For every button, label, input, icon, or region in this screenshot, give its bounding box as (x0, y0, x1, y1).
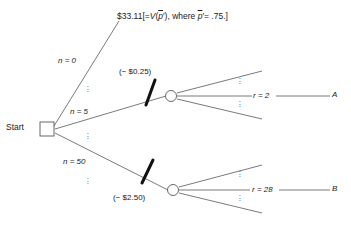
start-decision-node[interactable] (40, 122, 54, 136)
dot-glyph: · (237, 83, 243, 86)
dot-glyph: · (85, 183, 91, 186)
payoff-expression: $33.11[=V(p′), where p′= .75.] (117, 12, 228, 21)
branch-label-n0: n = 0 (58, 57, 76, 65)
ellipsis-outcome-lower-bottom: · · · (237, 195, 243, 203)
ellipsis-branches-middle: · · · (85, 133, 91, 141)
ellipsis-outcome-upper-bottom: · · · (237, 101, 243, 109)
outcome-label-upper: r = 2 (253, 92, 269, 100)
dot-glyph: · (237, 176, 243, 179)
decision-tree-diagram: Start $33.11[=V(p′), where p′= .75.] n =… (0, 0, 351, 230)
outcome-lower-top-line[interactable] (179, 165, 262, 187)
cost-label-upper: (− $0.25) (119, 68, 151, 76)
dot-glyph: · (237, 200, 243, 203)
outcome-upper-top-line[interactable] (177, 71, 262, 93)
cost-mark-upper-icon (146, 80, 155, 105)
outcome-label-lower: r = 28 (252, 186, 273, 194)
chance-node-lower[interactable] (168, 185, 179, 196)
ellipsis-outcome-lower-top: · · · (237, 171, 243, 179)
cost-label-lower: (− $2.50) (113, 194, 145, 202)
payoff-p-value: = .75. (204, 11, 226, 21)
ellipsis-outcome-upper-top: · · · (237, 78, 243, 86)
outcome-upper-bottom-line[interactable] (177, 99, 262, 119)
outcome-lower-bottom-line[interactable] (179, 193, 262, 213)
payoff-comma: , (167, 11, 169, 21)
payoff-amount: $33.11 (117, 11, 142, 21)
dot-glyph: · (237, 106, 243, 109)
branch-label-n50: n = 50 (63, 158, 85, 166)
terminal-label-a: A (332, 91, 337, 99)
payoff-where: where (172, 11, 195, 21)
ellipsis-branches-lower: · · · (85, 178, 91, 186)
chance-node-upper[interactable] (166, 91, 177, 102)
dot-glyph: · (85, 91, 91, 94)
dot-glyph: · (85, 138, 91, 141)
terminal-label-b: B (332, 185, 337, 193)
branch-label-n5: n = 5 (70, 108, 88, 116)
ellipsis-branches-upper: · · · (85, 86, 91, 94)
start-node-label: Start (6, 123, 24, 132)
payoff-bracket-close: ] (226, 11, 228, 21)
tree-canvas (0, 0, 351, 230)
